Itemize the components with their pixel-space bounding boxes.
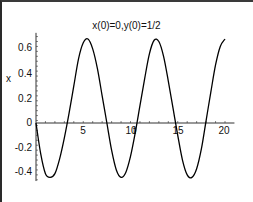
axes xyxy=(36,33,234,181)
plot-area xyxy=(0,0,253,202)
series-line xyxy=(36,39,225,178)
